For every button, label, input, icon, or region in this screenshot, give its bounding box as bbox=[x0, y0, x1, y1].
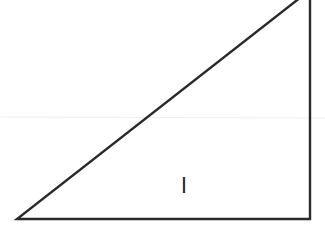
side-label: l bbox=[182, 173, 187, 198]
faint-guide-line bbox=[0, 117, 325, 118]
diagram-canvas: l bbox=[0, 0, 325, 248]
right-triangle bbox=[17, 0, 310, 219]
triangle-diagram: l bbox=[0, 0, 325, 248]
